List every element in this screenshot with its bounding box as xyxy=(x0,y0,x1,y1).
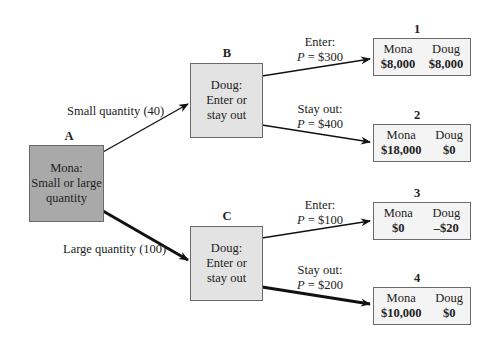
player1-name: Mona xyxy=(384,206,413,221)
price-value: = $300 xyxy=(305,50,343,64)
player2-name: Doug xyxy=(435,128,463,143)
node-b-line-1: Doug: xyxy=(206,78,247,93)
player1-payoff: $0 xyxy=(384,221,413,236)
edge-label-c-stay-out-action: Stay out: xyxy=(288,263,352,278)
edge-label-c-enter: Enter: P = $100 xyxy=(290,198,350,228)
price-var: P xyxy=(297,50,305,64)
outcome-4-payoff-box: Mona$10,000 Doug$0 xyxy=(373,287,471,325)
price-var: P xyxy=(297,278,305,292)
edge-label-b-enter: Enter: P = $300 xyxy=(290,35,350,65)
player2-payoff: $0 xyxy=(435,143,463,158)
node-a-line-1: Mona: xyxy=(31,161,102,176)
node-a: Mona: Small or large quantity xyxy=(29,145,104,222)
edge-label-b-stay-out: Stay out: P = $400 xyxy=(288,102,352,132)
node-a-label: A xyxy=(59,129,79,144)
edge-label-b-stay-out-action: Stay out: xyxy=(288,102,352,117)
outcome-1-payoff-box: Mona$8,000 Doug$8,000 xyxy=(373,38,471,76)
player2-name: Doug xyxy=(435,291,463,306)
price-value: = $200 xyxy=(305,278,343,292)
player2-payoff: $8,000 xyxy=(429,57,463,72)
node-a-line-3: quantity xyxy=(31,191,102,206)
price-var: P xyxy=(297,213,305,227)
node-a-line-2: Small or large xyxy=(31,176,102,191)
outcome-4-number: 4 xyxy=(407,271,427,286)
player2-name: Doug xyxy=(432,206,460,221)
player1-payoff: $10,000 xyxy=(381,306,422,321)
player1-payoff: $18,000 xyxy=(381,143,422,158)
node-b-label: B xyxy=(217,46,237,61)
player2-payoff: $0 xyxy=(435,306,463,321)
edge-label-small-quantity: Small quantity (40) xyxy=(67,104,164,119)
node-c: Doug: Enter or stay out xyxy=(190,226,263,301)
price-var: P xyxy=(297,117,305,131)
player1-name: Mona xyxy=(381,291,422,306)
outcome-2-payoff-box: Mona$18,000 Doug$0 xyxy=(373,124,471,162)
node-c-line-3: stay out xyxy=(206,271,247,286)
player2-payoff: –$20 xyxy=(432,221,460,236)
edge-label-b-enter-action: Enter: xyxy=(290,35,350,50)
outcome-1-number: 1 xyxy=(407,22,427,37)
price-value: = $400 xyxy=(305,117,343,131)
node-b-line-3: stay out xyxy=(206,108,247,123)
node-b-line-2: Enter or xyxy=(206,93,247,108)
edge-label-c-enter-action: Enter: xyxy=(290,198,350,213)
node-c-line-1: Doug: xyxy=(206,241,247,256)
player1-name: Mona xyxy=(381,42,415,57)
outcome-3-payoff-box: Mona$0 Doug–$20 xyxy=(373,202,471,240)
node-c-line-2: Enter or xyxy=(206,256,247,271)
edge-label-c-stay-out: Stay out: P = $200 xyxy=(288,263,352,293)
outcome-2-number: 2 xyxy=(407,108,427,123)
node-c-label: C xyxy=(217,209,237,224)
player2-name: Doug xyxy=(429,42,463,57)
outcome-3-number: 3 xyxy=(407,186,427,201)
price-value: = $100 xyxy=(305,213,343,227)
player1-payoff: $8,000 xyxy=(381,57,415,72)
node-b: Doug: Enter or stay out xyxy=(190,63,263,138)
player1-name: Mona xyxy=(381,128,422,143)
edge-label-large-quantity: Large quantity (100) xyxy=(63,242,166,257)
